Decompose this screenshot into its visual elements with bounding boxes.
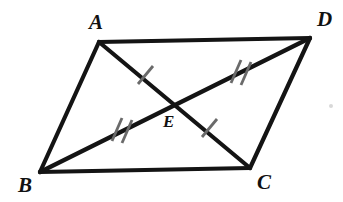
vertex-label-d: D [317, 9, 332, 30]
side-DC [250, 38, 310, 168]
vertex-label-c: C [257, 172, 271, 193]
side-AD [99, 38, 310, 42]
scan-speck [329, 104, 333, 108]
vertex-label-e: E [163, 113, 174, 130]
vertex-label-a: A [89, 12, 103, 33]
diagonal-BD [40, 38, 310, 172]
vertex-label-b: B [18, 175, 32, 196]
side-AB [40, 42, 99, 172]
geometry-figure: A D B C E [0, 0, 343, 202]
side-BC [40, 168, 250, 172]
parallelogram-diagram [0, 0, 343, 202]
